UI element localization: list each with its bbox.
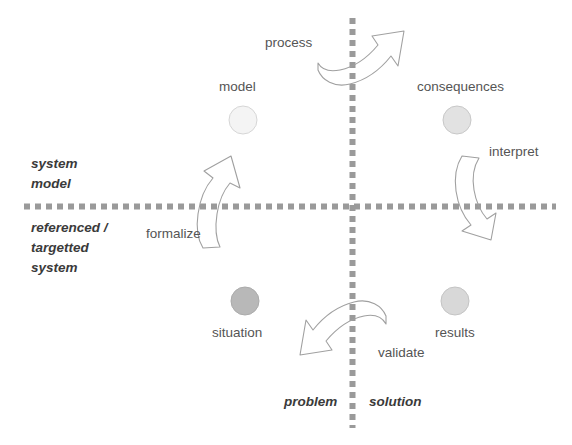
- arrow-label-formalize: formalize: [146, 226, 201, 241]
- node-label-consequences: consequences: [417, 79, 504, 94]
- validate-arrow: [300, 301, 386, 355]
- node-label-results: results: [435, 325, 475, 340]
- process-arrow: [318, 31, 404, 85]
- axis-label-referenced-system-line1: referenced /: [31, 218, 108, 238]
- arrow-label-validate: validate: [378, 345, 425, 360]
- axis-label-referenced-system-line3: system: [31, 258, 78, 278]
- diagram-canvas: model consequences situation results pro…: [0, 0, 572, 445]
- node-disc-model: [229, 106, 257, 134]
- axis-label-solution: solution: [369, 392, 422, 412]
- axis-label-problem: problem: [284, 392, 337, 412]
- axis-label-system-model-line1: system: [31, 154, 78, 174]
- formalize-arrow: [197, 156, 240, 248]
- interpret-arrow: [455, 156, 496, 240]
- arrow-label-interpret: interpret: [489, 144, 539, 159]
- node-disc-situation: [231, 287, 259, 315]
- node-label-situation: situation: [212, 325, 262, 340]
- axis-label-referenced-system-line2: targetted: [31, 238, 89, 258]
- node-disc-results: [441, 287, 469, 315]
- arrow-label-process: process: [265, 35, 312, 50]
- axis-label-system-model-line2: model: [31, 174, 71, 194]
- node-label-model: model: [219, 79, 256, 94]
- node-disc-consequences: [443, 106, 471, 134]
